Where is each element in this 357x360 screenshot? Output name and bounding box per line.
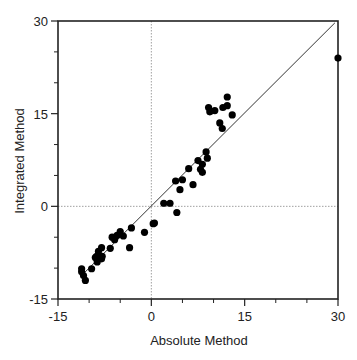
data-point: [107, 245, 114, 252]
data-point: [172, 177, 179, 184]
data-points: [78, 54, 342, 284]
data-point: [224, 93, 231, 100]
data-point: [176, 186, 183, 193]
y-axis-label: Integrated Method: [12, 108, 27, 214]
data-point: [202, 148, 209, 155]
y-tick-label: -15: [29, 292, 48, 307]
x-axis-label: Absolute Method: [150, 333, 248, 348]
data-point: [160, 200, 167, 207]
data-point: [334, 54, 341, 61]
data-point: [128, 224, 135, 231]
data-point: [88, 265, 95, 272]
data-point: [141, 229, 148, 236]
data-point: [199, 169, 206, 176]
data-point: [189, 181, 196, 188]
y-tick-label: 15: [34, 107, 48, 122]
x-tick-label: -15: [49, 309, 68, 324]
data-point: [98, 244, 105, 251]
y-tick-label: 0: [41, 199, 48, 214]
data-point: [173, 209, 180, 216]
data-point: [166, 200, 173, 207]
x-tick-label: 15: [237, 309, 251, 324]
scatter-chart: -1501530-1501530 Absolute Method Integra…: [0, 0, 357, 360]
x-tick-label: 30: [331, 309, 345, 324]
data-point: [229, 111, 236, 118]
data-point: [151, 219, 158, 226]
data-point: [120, 232, 127, 239]
data-point: [179, 176, 186, 183]
y-tick-label: 30: [34, 14, 48, 29]
data-point: [211, 107, 218, 114]
data-point: [224, 102, 231, 109]
data-point: [82, 277, 89, 284]
data-point: [219, 125, 226, 132]
data-point: [204, 155, 211, 162]
data-point: [126, 244, 133, 251]
data-point: [185, 165, 192, 172]
x-tick-label: 0: [148, 309, 155, 324]
